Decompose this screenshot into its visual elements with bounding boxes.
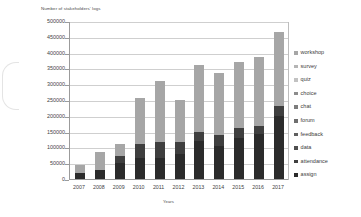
bar-segment-data (155, 142, 165, 158)
bar-stack[interactable] (254, 57, 264, 179)
bar-segment-data (194, 132, 204, 141)
bar-stack[interactable] (214, 73, 224, 179)
y-axis-tick-label: 150000 (31, 130, 65, 135)
legend-item-chat[interactable]: chat (294, 100, 358, 114)
legend-swatch-icon (294, 133, 298, 137)
y-axis-tick-mark (65, 69, 69, 70)
legend-item-label: forum (301, 118, 315, 124)
bar-segment-workshop (155, 81, 165, 142)
bar-segment-workshop (254, 57, 264, 125)
legend-item-quiz[interactable]: quiz (294, 73, 358, 87)
legend-item-label: assign (301, 172, 317, 178)
x-axis-title: Years (163, 199, 174, 204)
bar-segment-data (234, 128, 244, 137)
legend-item-choice[interactable]: choice (294, 87, 358, 101)
y-axis-tick-label: 0 (31, 177, 65, 182)
legend-swatch-icon (294, 146, 298, 150)
y-axis-tick-mark (65, 133, 69, 134)
legend-swatch-icon (294, 51, 298, 55)
bar-stack[interactable] (95, 152, 105, 179)
bar-stack[interactable] (194, 65, 204, 179)
bar-segment-assign (254, 134, 264, 179)
y-axis-tick-mark (65, 148, 69, 149)
bar-segment-assign (75, 173, 85, 179)
bar-segment-data (135, 144, 145, 158)
bar-segment-workshop (234, 62, 244, 128)
y-axis-tick-mark (65, 180, 69, 181)
bar-segment-assign (234, 138, 244, 179)
bar-segment-data (254, 126, 264, 134)
bar-segment-assign (155, 158, 165, 179)
legend-item-label: workshop (301, 50, 325, 56)
bar-segment-workshop (115, 144, 125, 156)
bar-segment-workshop (194, 65, 204, 131)
legend-item-workshop[interactable]: workshop (294, 46, 358, 60)
bar-segment-workshop (274, 32, 284, 106)
bar-segment-data (115, 156, 125, 163)
y-axis-tick-mark (65, 54, 69, 55)
bar-segment-assign (274, 116, 284, 179)
y-axis-tick-label: 450000 (31, 35, 65, 40)
bar-stack[interactable] (75, 165, 85, 179)
legend-swatch-icon (294, 173, 298, 177)
bar-series-container (70, 22, 288, 179)
legend-item-label: chat (301, 104, 311, 110)
y-axis-tick-label: 50000 (31, 161, 65, 166)
legend-swatch-icon (294, 78, 298, 82)
legend-swatch-icon (294, 105, 298, 109)
legend-item-data[interactable]: data (294, 141, 358, 155)
y-axis-tick-label: 250000 (31, 98, 65, 103)
legend-swatch-icon (294, 65, 298, 69)
bar-segment-data (175, 142, 185, 154)
bar-segment-workshop (214, 73, 224, 135)
bar-segment-assign (214, 146, 224, 179)
legend-item-forum[interactable]: forum (294, 114, 358, 128)
bar-segment-assign (175, 154, 185, 179)
bar-segment-workshop (75, 165, 85, 174)
x-axis-tick-label: 2017 (265, 185, 291, 190)
y-axis-tick-mark (65, 164, 69, 165)
bar-segment-data (214, 135, 224, 145)
bar-stack[interactable] (155, 81, 165, 179)
bar-stack[interactable] (175, 100, 185, 179)
y-axis-tick-mark (65, 101, 69, 102)
bar-segment-workshop (175, 100, 185, 142)
legend-item-label: attendance (301, 159, 328, 165)
chart-title: Number of stakeholders' logs (41, 6, 101, 11)
legend-swatch-icon (294, 119, 298, 123)
bar-segment-assign (95, 170, 105, 179)
legend-item-survey[interactable]: survey (294, 60, 358, 74)
bar-stack[interactable] (115, 144, 125, 179)
legend-item-assign[interactable]: assign (294, 168, 358, 182)
legend-swatch-icon (294, 92, 298, 96)
plot-area (69, 22, 288, 180)
plot-frame-right (288, 22, 289, 180)
legend-item-feedback[interactable]: feedback (294, 128, 358, 142)
legend-item-label: quiz (301, 77, 311, 83)
legend-item-attendance[interactable]: attendance (294, 155, 358, 169)
legend-item-label: choice (301, 91, 317, 97)
y-axis-tick-label: 500000 (31, 19, 65, 24)
y-axis-tick-label: 300000 (31, 82, 65, 87)
legend-item-label: survey (301, 64, 317, 70)
bar-segment-assign (115, 163, 125, 179)
y-axis-tick-label: 400000 (31, 51, 65, 56)
y-axis-tick-mark (65, 85, 69, 86)
bar-segment-data (274, 106, 284, 116)
bar-segment-assign (135, 158, 145, 179)
y-axis-tick-label: 200000 (31, 114, 65, 119)
stacked-bar-chart: Number of stakeholders' logs 50000045000… (0, 0, 361, 217)
scan-artifact (2, 62, 19, 110)
y-axis-tick-mark (65, 117, 69, 118)
y-axis-tick-label: 100000 (31, 145, 65, 150)
bar-stack[interactable] (135, 98, 145, 179)
legend-item-label: data (301, 145, 312, 151)
legend-swatch-icon (294, 160, 298, 164)
bar-segment-workshop (95, 152, 105, 169)
bar-segment-assign (194, 141, 204, 179)
bar-stack[interactable] (234, 62, 244, 179)
bar-segment-workshop (135, 98, 145, 143)
y-axis-tick-mark (65, 38, 69, 39)
y-axis-tick-label: 350000 (31, 66, 65, 71)
bar-stack[interactable] (274, 32, 284, 179)
